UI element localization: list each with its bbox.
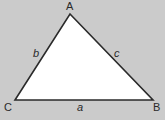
vertex-label-c: C [4,101,12,113]
side-label-c: c [114,47,120,59]
vertex-label-b: B [153,101,160,113]
vertex-label-a: A [66,0,74,12]
side-label-a: a [77,101,83,113]
triangle-diagram: A B C a b c [0,0,165,120]
triangle-svg: A B C a b c [0,0,165,120]
side-label-b: b [33,47,39,59]
